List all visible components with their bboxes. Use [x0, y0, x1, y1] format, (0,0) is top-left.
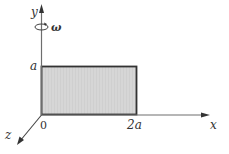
- y-axis-label: y: [30, 5, 38, 19]
- width-label: 2a: [126, 118, 142, 132]
- height-label: a: [30, 59, 37, 73]
- x-axis-arrow-icon: [201, 113, 210, 118]
- y-axis-arrow-icon: [39, 4, 44, 13]
- z-axis-label: z: [4, 128, 12, 142]
- omega-label: ω: [51, 21, 62, 34]
- plate-rotation-diagram: y ω a 0 2a x z: [0, 0, 229, 154]
- origin-label: 0: [40, 119, 47, 132]
- rectangular-plate: [42, 67, 137, 115]
- x-axis-label: x: [210, 118, 217, 132]
- z-axis: [17, 115, 42, 145]
